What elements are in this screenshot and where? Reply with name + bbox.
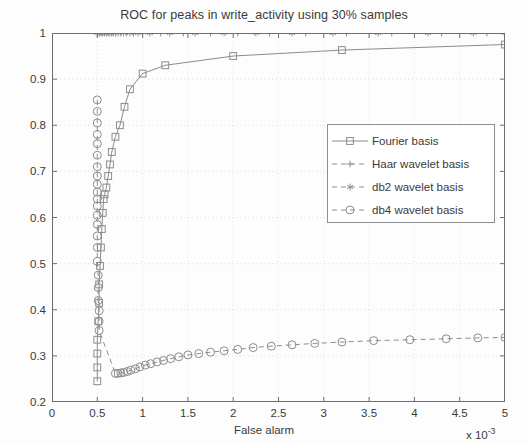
x-tick-label: 3 xyxy=(304,407,344,419)
legend[interactable]: Fourier basisHaar wavelet basisdb2 wavel… xyxy=(327,124,495,223)
legend-label: db4 wavelet basis xyxy=(372,204,463,216)
x-tick-label: 2 xyxy=(213,407,253,419)
y-tick-label: 1 xyxy=(6,27,46,39)
legend-item-3[interactable]: db2 wavelet basis xyxy=(328,175,494,199)
x-tick-label: 1.5 xyxy=(168,407,208,419)
x-tick-label: 0.5 xyxy=(77,407,117,419)
x-tick-label: 3.5 xyxy=(349,407,389,419)
x-tick-label: 2.5 xyxy=(259,407,299,419)
legend-item-4[interactable]: db4 wavelet basis xyxy=(328,198,494,222)
exponent-prefix: x 10 xyxy=(466,429,488,441)
x-tick-label: 4.5 xyxy=(440,407,480,419)
x-tick-label: 1 xyxy=(123,407,163,419)
exponent-power: -3 xyxy=(488,426,496,436)
y-tick-label: 0.8 xyxy=(6,119,46,131)
legend-marker-plus-icon xyxy=(328,153,372,175)
x-tick-label: 0 xyxy=(32,407,72,419)
legend-label: db2 wavelet basis xyxy=(372,181,463,193)
chart-figure: ROC for peaks in write_activity using 30… xyxy=(0,0,528,445)
y-tick-label: 0.7 xyxy=(6,165,46,177)
y-tick-label: 0.5 xyxy=(6,258,46,270)
y-tick-label: 0.9 xyxy=(6,73,46,85)
legend-item-2[interactable]: Haar wavelet basis xyxy=(328,152,494,176)
y-tick-label: 0.3 xyxy=(6,350,46,362)
x-tick-label: 4 xyxy=(394,407,434,419)
legend-item-1[interactable]: Fourier basis xyxy=(328,129,494,153)
chart-title: ROC for peaks in write_activity using 30… xyxy=(0,8,528,22)
x-axis-label: False alarm xyxy=(0,424,528,436)
y-tick-label: 0.4 xyxy=(6,304,46,316)
x-tick-label: 5 xyxy=(485,407,525,419)
y-tick-label: 0.6 xyxy=(6,212,46,224)
legend-marker-asterisk-icon xyxy=(328,176,372,198)
x-axis-exponent: x 10-3 xyxy=(466,426,495,441)
legend-label: Haar wavelet basis xyxy=(372,158,469,170)
legend-marker-circle-icon xyxy=(328,199,372,221)
legend-marker-square-icon xyxy=(328,130,372,152)
legend-label: Fourier basis xyxy=(372,135,438,147)
